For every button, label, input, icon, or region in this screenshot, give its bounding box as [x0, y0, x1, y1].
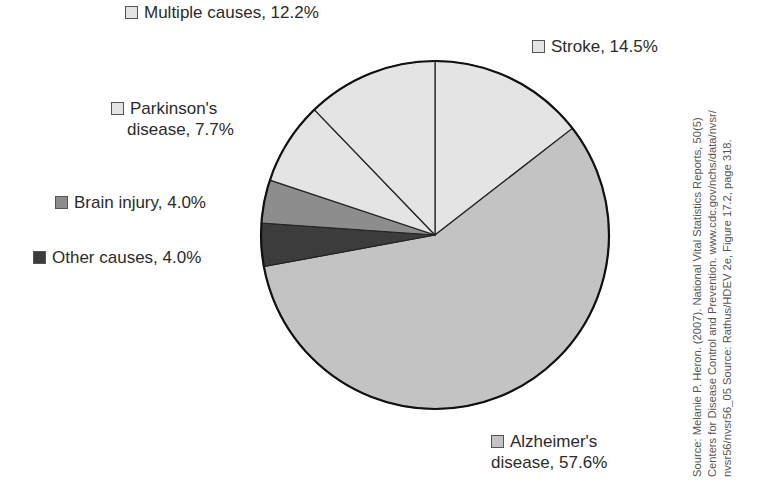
source-line: Source: Melanie P. Heron. (2007). Nation… [690, 7, 705, 477]
pie-slices [261, 61, 609, 409]
swatch-stroke [532, 40, 545, 53]
label-parkinsons: Parkinson's disease, 7.7% [111, 98, 234, 140]
label-text: Multiple causes, 12.2% [144, 3, 319, 22]
label-alzheimers: Alzheimer's disease, 57.6% [491, 431, 607, 473]
label-text: Alzheimer's [510, 432, 597, 451]
label-text: disease, 57.6% [491, 452, 607, 473]
label-text: Parkinson's [130, 99, 217, 118]
swatch-multiple-causes [125, 6, 138, 19]
label-text: disease, 7.7% [111, 119, 234, 140]
label-stroke: Stroke, 14.5% [532, 36, 658, 57]
label-text: Other causes, 4.0% [52, 248, 201, 267]
swatch-alzheimers [491, 435, 504, 448]
source-line: Centers for Disease Control and Preventi… [705, 7, 720, 477]
source-line: nvsr56/nvsr56_05 Source: Rathus/HDEV 2e,… [720, 7, 735, 477]
label-multiple-causes: Multiple causes, 12.2% [125, 2, 319, 23]
label-other-causes: Other causes, 4.0% [33, 247, 201, 268]
source-citation: Source: Melanie P. Heron. (2007). Nation… [690, 7, 735, 477]
swatch-other-causes [33, 251, 46, 264]
label-text: Brain injury, 4.0% [74, 193, 206, 212]
label-brain-injury: Brain injury, 4.0% [55, 192, 206, 213]
swatch-brain-injury [55, 196, 68, 209]
label-text: Stroke, 14.5% [551, 37, 658, 56]
swatch-parkinsons [111, 102, 124, 115]
